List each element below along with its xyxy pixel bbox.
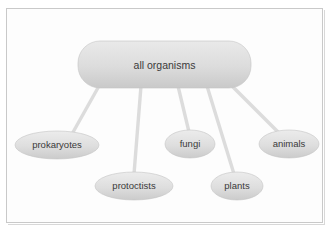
node-protoctists-label: protoctists bbox=[112, 180, 156, 191]
connector-root-to-animals bbox=[232, 86, 279, 133]
node-prokaryotes[interactable]: prokaryotes bbox=[15, 131, 99, 159]
connector-root-to-prokaryotes bbox=[72, 86, 99, 134]
node-prokaryotes-label: prokaryotes bbox=[32, 139, 82, 150]
node-plants-label: plants bbox=[224, 180, 250, 191]
node-plants[interactable]: plants bbox=[211, 172, 263, 200]
connector-root-to-protoctists bbox=[134, 86, 141, 174]
node-all-organisms-label: all organisms bbox=[134, 59, 196, 71]
concept-map-canvas: all organisms prokaryotes protoctists fu… bbox=[0, 0, 331, 233]
node-fungi-label: fungi bbox=[180, 138, 201, 149]
connector-root-to-plants bbox=[207, 86, 234, 174]
node-protoctists[interactable]: protoctists bbox=[95, 172, 173, 200]
diagram-screenshot: all organisms prokaryotes protoctists fu… bbox=[0, 0, 331, 233]
node-animals[interactable]: animals bbox=[259, 130, 319, 158]
connector-root-to-fungi bbox=[178, 86, 189, 132]
node-animals-label: animals bbox=[273, 138, 306, 149]
connector-group bbox=[72, 86, 279, 174]
node-all-organisms[interactable]: all organisms bbox=[78, 41, 251, 88]
node-fungi[interactable]: fungi bbox=[165, 130, 215, 158]
